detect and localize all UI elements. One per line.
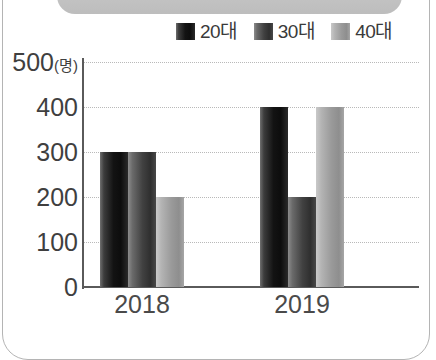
legend-swatch-20dae-icon [176,23,195,40]
chart-legend: 20대 30대 40대 [176,22,392,41]
bar-2019-20대 [260,107,288,287]
legend-label-30dae: 30대 [278,22,315,41]
legend-label-40dae: 40대 [355,22,392,41]
legend-swatch-40dae-icon [331,23,350,40]
y-tick-label-500: 500(명) [0,50,78,75]
bar-2018-30대 [128,152,156,287]
legend-item-30dae: 30대 [254,22,315,41]
y-tick-label-400: 400 [0,95,78,120]
y-axis-unit-label: (명) [54,57,78,74]
bar-group-container [82,62,419,287]
legend-swatch-30dae-icon [254,23,273,40]
y-tick-label-300: 300 [0,140,78,165]
x-tick-label-2019: 2019 [262,292,342,317]
bar-2019-40대 [316,107,344,287]
bar-2019-30대 [288,197,316,287]
legend-item-20dae: 20대 [176,22,237,41]
x-tick-label-2018: 2018 [102,292,182,317]
legend-item-40dae: 40대 [331,22,392,41]
legend-label-20dae: 20대 [200,22,237,41]
bar-2018-20대 [100,152,128,287]
bar-2018-40대 [156,197,184,287]
y-tick-label-100: 100 [0,230,78,255]
y-tick-label-0: 0 [0,275,78,300]
y-tick-label-200: 200 [0,185,78,210]
header-band [57,0,402,14]
